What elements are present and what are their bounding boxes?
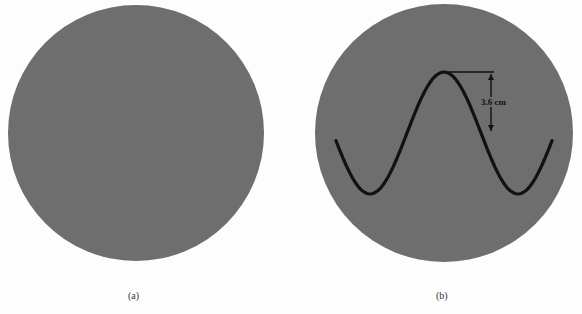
- caption-b: (b): [436, 290, 448, 301]
- oscilloscope-figure: 3.6 cm: [0, 0, 582, 314]
- caption-a: (a): [128, 290, 139, 301]
- amplitude-label: 3.6 cm: [481, 97, 506, 107]
